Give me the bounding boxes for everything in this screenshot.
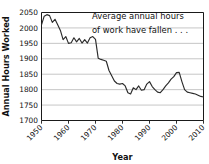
x-axis-tick-label: 1970 bbox=[79, 123, 99, 143]
line-chart: 1700175018001850190019502000205019501960… bbox=[0, 0, 209, 164]
y-axis-tick-label: 1850 bbox=[19, 70, 38, 79]
x-axis-tick-label: 1950 bbox=[25, 123, 45, 143]
x-axis-tick-label: 2000 bbox=[160, 123, 180, 143]
x-axis-title: Year bbox=[111, 152, 133, 162]
chart-annotation-line-2: of work have fallen . . . bbox=[92, 25, 188, 35]
y-axis-tick-label: 1900 bbox=[19, 54, 38, 63]
x-axis-tick-label: 1960 bbox=[52, 123, 72, 143]
y-axis-tick-label: 1700 bbox=[19, 116, 38, 125]
y-axis-tick-label: 1800 bbox=[19, 85, 38, 94]
y-axis-tick-label: 2050 bbox=[19, 8, 38, 17]
x-axis-tick-label: 1980 bbox=[106, 123, 126, 143]
x-axis-tick-label: 2010 bbox=[187, 123, 207, 143]
chart-figure: 1700175018001850190019502000205019501960… bbox=[0, 0, 209, 164]
y-axis-tick-label: 1750 bbox=[19, 101, 38, 110]
y-axis-tick-label: 2000 bbox=[19, 24, 38, 33]
y-axis-tick-label: 1950 bbox=[19, 39, 38, 48]
y-axis-title: Annual Hours Worked bbox=[1, 16, 11, 116]
chart-annotation-line-1: Average annual hours bbox=[92, 11, 184, 21]
x-axis-tick-label: 1990 bbox=[133, 123, 153, 143]
